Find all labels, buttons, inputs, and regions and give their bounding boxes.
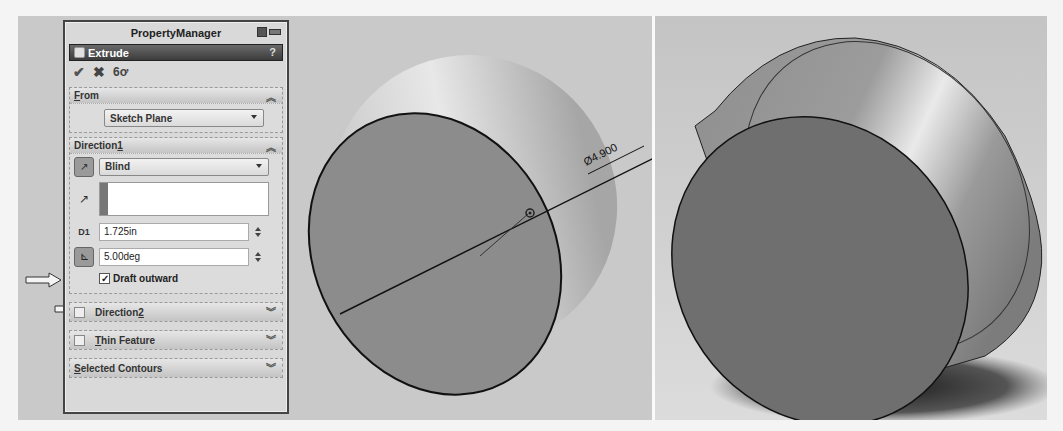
direction2-group-header[interactable]: Direction 2 ︾ <box>70 303 282 321</box>
from-group-header[interactable]: From ︽ <box>70 88 282 104</box>
expand-icon[interactable]: ︾ <box>266 304 276 319</box>
collapse-icon[interactable]: ︽ <box>266 89 276 104</box>
end-condition-value: Blind <box>105 161 130 172</box>
thin-feature-group-header[interactable]: Thin Feature ︾ <box>70 331 282 349</box>
panel-layout-icon[interactable] <box>257 27 267 37</box>
start-condition-value: Sketch Plane <box>110 113 172 124</box>
collapse-icon[interactable]: ︽ <box>266 139 276 154</box>
direction-selection-box[interactable] <box>99 182 269 216</box>
direction2-mnemonic: 2 <box>138 307 144 318</box>
action-buttons: ✔ ✖ 6ơ <box>65 61 287 83</box>
selected-contours-group-header[interactable]: Selected Contours ︾ <box>70 359 282 377</box>
depth-icon: D1 <box>74 222 94 242</box>
draft-toggle-icon[interactable]: ⊾ <box>74 247 94 267</box>
panel-title: PropertyManager <box>65 22 287 44</box>
direction1-group: Direction 1 ︽ ↗ Blind ↗ D1 1.725in <box>69 137 283 294</box>
draft-outward-checkbox[interactable]: ✓ Draft outward <box>70 269 282 287</box>
depth-value: 1.725in <box>104 226 137 237</box>
final-part-viewport[interactable] <box>655 16 1047 420</box>
detailed-preview-button[interactable]: 6ơ <box>113 65 128 79</box>
thin-feature-group[interactable]: Thin Feature ︾ <box>69 330 283 350</box>
panel-title-label: PropertyManager <box>131 27 221 39</box>
checkbox-checked-icon[interactable]: ✓ <box>99 273 110 284</box>
feature-name: Extrude <box>88 47 129 59</box>
selection-color-bar <box>100 183 108 215</box>
selected-contours-group[interactable]: Selected Contours ︾ <box>69 358 283 378</box>
pin-icon[interactable] <box>269 29 281 35</box>
reverse-direction-icon[interactable]: ↗ <box>74 157 94 177</box>
start-condition-select[interactable]: Sketch Plane <box>104 109 264 127</box>
draft-angle-spinner[interactable] <box>255 252 261 262</box>
feature-title-bar: Extrude ? <box>69 44 283 61</box>
dropdown-arrow-icon <box>251 115 257 119</box>
direction2-header-label: Direction <box>95 307 138 318</box>
depth-spinner[interactable] <box>255 227 261 237</box>
direction1-mnemonic: 1 <box>117 140 123 151</box>
left-screenshot: Ø4.900 PropertyManager Extrude ? ✔ ✖ 6ơ <box>18 16 652 420</box>
draft-outward-label: Draft outward <box>113 273 178 284</box>
expand-icon[interactable]: ︾ <box>266 332 276 347</box>
property-manager-panel: PropertyManager Extrude ? ✔ ✖ 6ơ From ︽ <box>63 20 289 414</box>
selected-contours-header-label: elected Contours <box>81 363 163 374</box>
direction2-checkbox[interactable] <box>74 307 85 318</box>
thin-feature-header-label: hin Feature <box>101 335 155 346</box>
extrude-feature-icon <box>74 47 85 58</box>
from-header-label: rom <box>80 90 99 101</box>
dropdown-arrow-icon <box>256 164 262 168</box>
thin-feature-checkbox[interactable] <box>74 335 85 346</box>
draft-angle-value: 5.00deg <box>104 251 140 262</box>
direction1-header-label: Direction <box>74 140 117 151</box>
depth-input[interactable]: 1.725in <box>99 223 249 241</box>
right-screenshot <box>655 16 1047 420</box>
direction-of-extrusion-icon: ↗ <box>74 189 94 209</box>
expand-icon[interactable]: ︾ <box>266 360 276 375</box>
selected-contours-mnemonic: S <box>74 363 81 374</box>
ok-button[interactable]: ✔ <box>73 64 85 80</box>
callout-arrow-draft-angle <box>25 272 63 288</box>
end-condition-select[interactable]: Blind <box>99 158 269 176</box>
draft-angle-input[interactable]: 5.00deg <box>99 248 249 266</box>
cancel-button[interactable]: ✖ <box>93 64 105 80</box>
help-button[interactable]: ? <box>269 46 276 58</box>
direction1-group-header[interactable]: Direction 1 ︽ <box>70 138 282 154</box>
direction2-group[interactable]: Direction 2 ︾ <box>69 302 283 322</box>
from-group: From ︽ Sketch Plane <box>69 87 283 133</box>
